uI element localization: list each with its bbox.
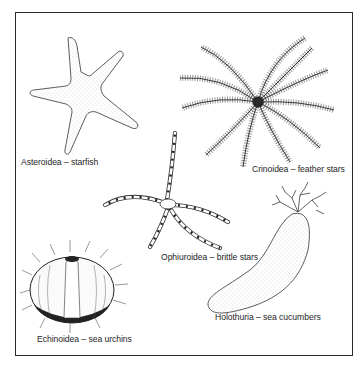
sea-cucumber-icon — [208, 182, 326, 313]
sea-urchin-icon — [20, 240, 128, 333]
label-asteroidea: Asteroidea – starfish — [21, 157, 98, 167]
brittle-star-icon — [105, 133, 228, 248]
label-ophiuroidea: Ophiuroidea – brittle stars — [161, 252, 258, 262]
label-echinoidea: Echinoidea – sea urchins — [37, 334, 132, 344]
feather-star-icon — [180, 38, 334, 167]
starfish-icon — [30, 37, 138, 154]
label-crinoidea: Crinoidea – feather stars — [252, 164, 345, 174]
label-holothuria: Holothuria – sea cucumbers — [215, 312, 321, 322]
